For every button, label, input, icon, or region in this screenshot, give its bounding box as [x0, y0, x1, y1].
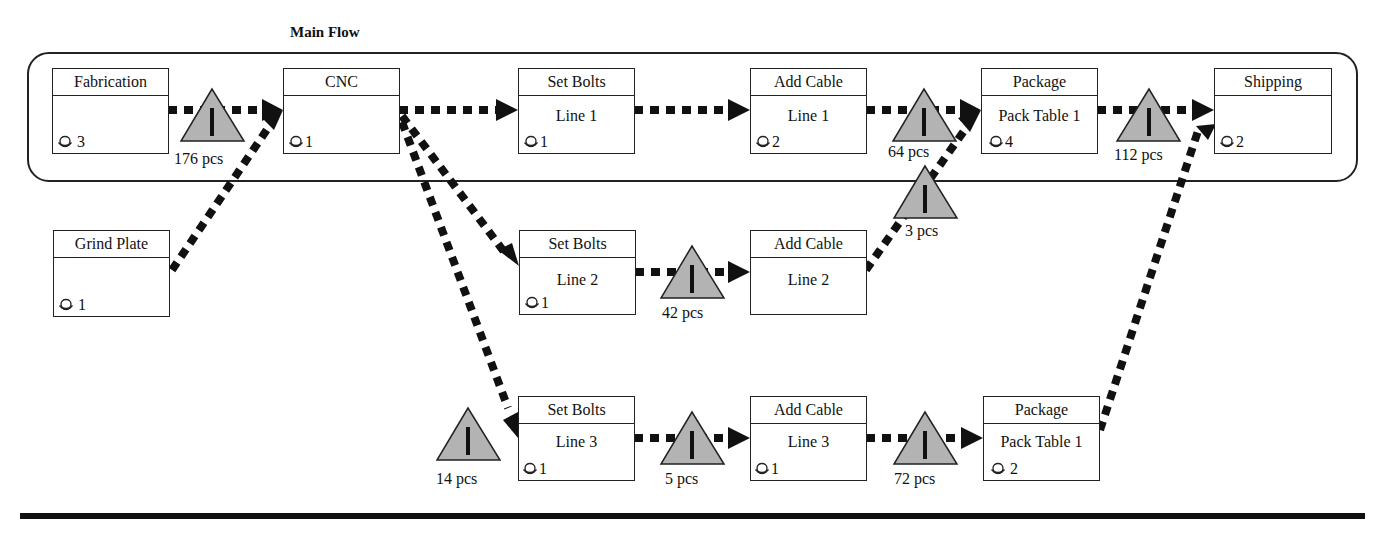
- operator-icon: [524, 296, 540, 310]
- operator-icon: [990, 462, 1006, 476]
- operator-count: 1: [523, 133, 548, 151]
- process-subtitle: Line 3: [751, 433, 866, 451]
- process-subtitle: Pack Table 1: [982, 433, 1101, 451]
- push-arrow-icon: [496, 99, 518, 121]
- push-arrow-icon: [728, 427, 750, 449]
- process-package-pack-table-1-line-3[interactable]: Package Pack Table 1 2: [983, 396, 1100, 481]
- push-arrow-icon: [503, 412, 518, 438]
- process-subtitle: Line 2: [751, 271, 866, 289]
- operator-icon: [754, 462, 770, 476]
- operator-count-value: 2: [1236, 133, 1244, 151]
- process-title: Add Cable: [751, 397, 866, 424]
- bottom-rule: [20, 513, 1365, 519]
- process-subtitle: Line 3: [519, 433, 634, 451]
- process-set-bolts-line-2[interactable]: Set Bolts Line 2 1: [519, 230, 636, 315]
- process-title: Add Cable: [751, 69, 866, 96]
- process-cnc[interactable]: CNC 1: [283, 68, 400, 154]
- process-title: Set Bolts: [519, 69, 634, 96]
- push-arrow-icon: [728, 99, 750, 121]
- operator-icon: [1219, 135, 1235, 149]
- inventory-label-fab-cnc: 176 pcs: [174, 150, 223, 168]
- process-title: CNC: [284, 69, 399, 96]
- inventory-label-before-bolts3: 14 pcs: [436, 470, 477, 488]
- process-set-bolts-line-1[interactable]: Set Bolts Line 1 1: [518, 68, 635, 154]
- process-subtitle: Pack Table 1: [980, 107, 1099, 125]
- process-shipping[interactable]: Shipping 2: [1214, 68, 1332, 154]
- inventory-label-pack-ship: 112 pcs: [1114, 146, 1163, 164]
- inventory-label-cable3-pack3: 72 pcs: [894, 470, 935, 488]
- process-title: Fabrication: [53, 69, 168, 96]
- operator-count-value: 1: [540, 133, 548, 151]
- operator-icon: [755, 135, 771, 149]
- operator-count: 2: [1219, 133, 1244, 151]
- inventory-label-bolts3-cable3: 5 pcs: [665, 470, 698, 488]
- operator-count-value: 1: [305, 133, 313, 151]
- process-subtitle: Line 2: [520, 271, 635, 289]
- operator-count: 2: [990, 460, 1018, 478]
- operator-icon: [288, 135, 304, 149]
- process-grind-plate[interactable]: Grind Plate 1: [53, 230, 170, 317]
- process-title: Grind Plate: [54, 231, 169, 258]
- operator-count-value: 1: [539, 460, 547, 478]
- process-add-cable-line-1[interactable]: Add Cable Line 1 2: [750, 68, 867, 154]
- process-title: Package: [982, 69, 1097, 96]
- operator-count-value: 1: [541, 294, 549, 312]
- operator-icon: [522, 462, 538, 476]
- process-title: Set Bolts: [519, 397, 634, 424]
- process-subtitle: Line 1: [519, 107, 634, 125]
- operator-count: 3: [57, 133, 85, 151]
- operator-count: 1: [754, 460, 779, 478]
- flow-arrows-layer: [0, 0, 1385, 535]
- operator-count: 1: [522, 460, 547, 478]
- push-arrow-icon: [728, 261, 750, 283]
- operator-count-value: 4: [1005, 133, 1013, 151]
- operator-icon: [57, 135, 73, 149]
- value-stream-map: Main Flow: [0, 0, 1385, 535]
- operator-count: 1: [58, 296, 86, 314]
- operator-count-value: 2: [772, 133, 780, 151]
- flow-package3-shipping: [1100, 128, 1199, 430]
- push-arrow-icon: [1192, 99, 1214, 121]
- operator-count: 4: [988, 133, 1013, 151]
- process-set-bolts-line-3[interactable]: Set Bolts Line 3 1: [518, 396, 635, 481]
- push-arrow-icon: [961, 427, 983, 449]
- inventory-label-cable2-pack: 3 pcs: [905, 222, 938, 240]
- flow-cnc-bolts2: [402, 116, 505, 253]
- process-add-cable-line-3[interactable]: Add Cable Line 3 1: [750, 396, 867, 481]
- process-package-pack-table-1[interactable]: Package Pack Table 1 4: [981, 68, 1098, 154]
- inventory-label-bolts2-cable2: 42 pcs: [662, 304, 703, 322]
- flow-cnc-bolts3: [402, 122, 508, 408]
- operator-count: 1: [288, 133, 313, 151]
- operator-count-value: 2: [1010, 460, 1018, 478]
- operator-icon: [988, 135, 1004, 149]
- process-title: Shipping: [1215, 69, 1331, 96]
- inventory-label-cable1-pack: 64 pcs: [888, 143, 929, 161]
- operator-count: 1: [524, 294, 549, 312]
- process-add-cable-line-2[interactable]: Add Cable Line 2: [750, 230, 867, 315]
- operator-icon: [523, 135, 539, 149]
- operator-count-value: 1: [78, 296, 86, 314]
- process-fabrication[interactable]: Fabrication 3: [52, 68, 169, 154]
- operator-icon: [58, 298, 74, 312]
- operator-count-value: 3: [77, 133, 85, 151]
- process-subtitle: Line 1: [751, 107, 866, 125]
- operator-count-value: 1: [771, 460, 779, 478]
- operator-count: 2: [755, 133, 780, 151]
- process-title: Package: [984, 397, 1099, 424]
- process-title: Set Bolts: [520, 231, 635, 258]
- process-title: Add Cable: [751, 231, 866, 258]
